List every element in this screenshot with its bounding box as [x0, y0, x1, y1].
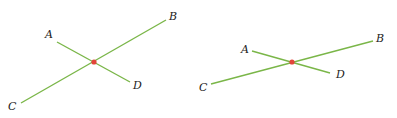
intersection-point-left	[91, 59, 96, 64]
label-d-right: D	[335, 68, 345, 81]
label-c-left: C	[8, 100, 17, 113]
label-a-left: A	[44, 28, 53, 41]
label-b-left: B	[168, 10, 177, 23]
label-a-right: A	[240, 43, 249, 56]
label-d-left: D	[132, 79, 142, 92]
label-c-right: C	[199, 81, 208, 94]
intersection-point-right	[289, 59, 294, 64]
right-figure: A B C D	[199, 32, 384, 94]
left-figure: A B C D	[8, 10, 177, 113]
label-b-right: B	[375, 32, 384, 45]
diagram-canvas: A B C D A B C D	[0, 0, 397, 118]
